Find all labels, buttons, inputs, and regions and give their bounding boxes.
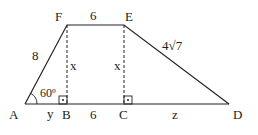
right-angle-B-dot [62,99,64,101]
vertex-B: B [62,107,71,122]
right-angle-C-dot [127,99,129,101]
label-side-BC: 6 [90,107,97,122]
label-segment-CD: z [172,107,178,122]
vertex-E: E [125,9,133,24]
label-side-AF: 8 [32,48,39,63]
trapezoid-diagram: A B C D E F 8 6 4√7 6 y z x x 60º [0,0,258,135]
vertex-F: F [55,9,62,24]
vertex-A: A [9,107,19,122]
vertex-C: C [119,107,128,122]
label-side-ED: 4√7 [162,38,183,53]
label-height-EC: x [114,58,121,73]
label-angle-A: 60º [40,86,56,100]
label-side-FE: 6 [90,8,97,23]
label-height-FB: x [70,58,77,73]
label-segment-AB: y [47,106,54,121]
vertex-D: D [233,107,242,122]
angle-arc-A-icon [31,94,37,105]
